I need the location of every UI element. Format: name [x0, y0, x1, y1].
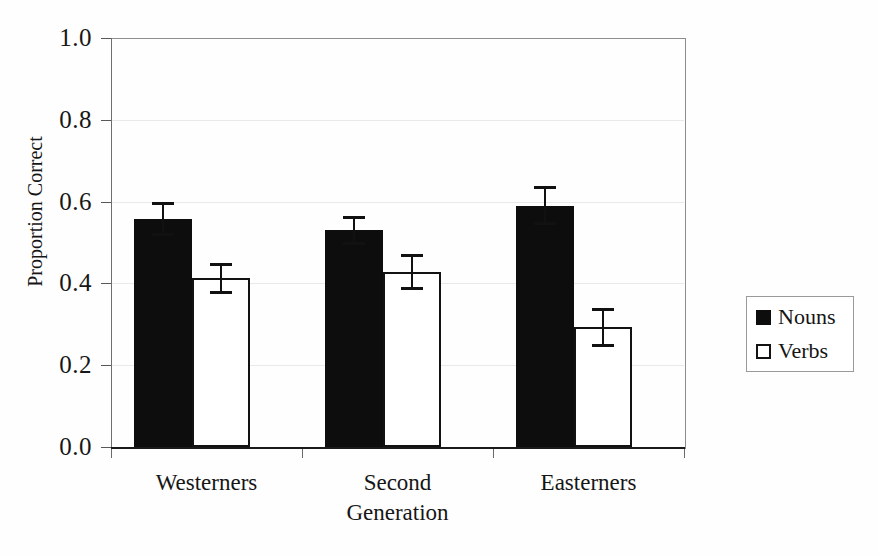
x-category-label-line: Second: [364, 470, 432, 495]
error-bar-nouns-westerners: [152, 202, 174, 236]
error-bar-cap-top: [210, 263, 232, 266]
gridline: [112, 120, 684, 121]
x-tick-mark-edge: [111, 449, 112, 458]
error-bar-stem: [544, 186, 546, 224]
bar-verbs-second-generation: [383, 272, 441, 447]
y-tick-label-text: 1.0: [30, 25, 92, 50]
error-bar-cap-top: [401, 254, 423, 257]
error-bar-stem: [353, 216, 355, 245]
error-bar-nouns-easterners: [534, 186, 556, 224]
y-tick-mark: [101, 38, 111, 39]
bar-verbs-westerners: [192, 278, 250, 447]
y-tick-label-text: 0.0: [30, 434, 92, 459]
y-tick-label: 0.6: [30, 189, 92, 214]
legend-swatch-open-square-icon: [756, 344, 771, 359]
y-tick-label: 0.8: [30, 107, 92, 132]
y-tick-label: 0.4: [30, 270, 92, 295]
y-tick-label-text: 0.8: [30, 107, 92, 132]
error-bar-verbs-easterners: [592, 308, 614, 347]
figure: Proportion Correct 0.00.20.40.60.81.0 We…: [0, 0, 879, 555]
x-category-label-line: Easterners: [541, 470, 637, 495]
x-tick-mark: [493, 449, 494, 458]
y-tick-label: 1.0: [30, 25, 92, 50]
gridline: [112, 202, 684, 203]
y-tick-mark: [101, 202, 111, 203]
error-bar-stem: [220, 263, 222, 294]
bar-nouns-second-generation: [325, 230, 383, 447]
x-tick-mark: [302, 449, 303, 458]
y-tick-mark: [101, 447, 111, 448]
bar-nouns-westerners: [134, 219, 192, 447]
error-bar-cap-bottom: [210, 291, 232, 294]
y-tick-label-text: 0.6: [30, 189, 92, 214]
error-bar-cap-bottom: [534, 222, 556, 225]
legend-swatch-filled-square-icon: [756, 310, 771, 325]
y-tick-label-text: 0.4: [30, 270, 92, 295]
x-category-label-easterners: Easterners: [473, 468, 704, 498]
x-category-label-line: Westerners: [156, 470, 258, 495]
error-bar-cap-top: [152, 202, 174, 205]
legend-item-verbs: Verbs: [756, 336, 828, 366]
x-axis-baseline: [111, 447, 685, 449]
error-bar-cap-bottom: [343, 242, 365, 245]
x-category-label-line: Generation: [282, 498, 513, 528]
error-bar-cap-bottom: [592, 344, 614, 347]
error-bar-stem: [411, 254, 413, 291]
y-tick-label-text: 0.2: [30, 352, 92, 377]
y-tick-label: 0.2: [30, 352, 92, 377]
error-bar-stem: [602, 308, 604, 347]
y-tick-mark: [101, 283, 111, 284]
error-bar-cap-top: [343, 216, 365, 219]
error-bar-cap-top: [534, 186, 556, 189]
y-tick-label: 0.0: [30, 434, 92, 459]
error-bar-verbs-westerners: [210, 263, 232, 294]
error-bar-cap-bottom: [401, 287, 423, 290]
y-axis-spine: [111, 38, 112, 448]
legend-label-verbs: Verbs: [778, 340, 828, 362]
legend-label-nouns: Nouns: [778, 306, 835, 328]
y-tick-mark: [101, 120, 111, 121]
error-bar-nouns-second-generation: [343, 216, 365, 245]
error-bar-stem: [162, 202, 164, 236]
y-tick-mark: [101, 365, 111, 366]
legend: Nouns Verbs: [746, 296, 854, 372]
bar-nouns-easterners: [516, 206, 574, 447]
legend-item-nouns: Nouns: [756, 302, 835, 332]
x-tick-mark-edge: [684, 449, 685, 458]
error-bar-cap-top: [592, 308, 614, 311]
error-bar-verbs-second-generation: [401, 254, 423, 291]
error-bar-cap-bottom: [152, 233, 174, 236]
